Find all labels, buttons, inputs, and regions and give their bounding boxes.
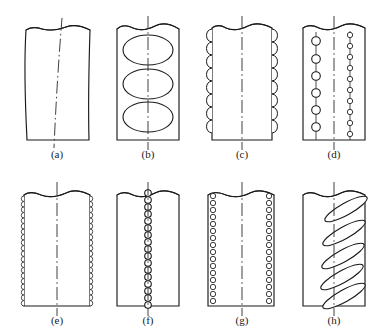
- panel-b-caption: (b): [142, 148, 155, 161]
- figure-root: (a) (b): [0, 0, 386, 336]
- panel-b: (b): [117, 16, 179, 161]
- panel-c: (c): [207, 16, 278, 161]
- panel-d-caption: (d): [328, 148, 341, 161]
- panel-f-caption: (f): [143, 314, 154, 327]
- panel-a: (a): [25, 18, 90, 161]
- panel-c-caption: (c): [236, 148, 249, 161]
- panel-e-caption: (e): [51, 314, 64, 327]
- panel-g: (g): [208, 182, 274, 327]
- panel-g-caption: (g): [236, 314, 249, 327]
- panel-h: (h): [303, 182, 370, 327]
- panel-g-outline: [208, 191, 274, 306]
- panel-c-right-scallops: [272, 29, 277, 133]
- panel-e: (e): [21, 182, 93, 327]
- panel-c-left-scallops: [207, 29, 212, 133]
- panel-d: (d): [303, 16, 365, 161]
- technical-drawing-canvas: (a) (b): [0, 0, 386, 336]
- panel-h-caption: (h): [328, 314, 341, 327]
- panel-e-right-scallops: [90, 196, 93, 306]
- panel-e-left-scallops: [21, 196, 24, 306]
- panel-f: (f): [117, 182, 179, 327]
- panel-a-caption: (a): [51, 148, 64, 161]
